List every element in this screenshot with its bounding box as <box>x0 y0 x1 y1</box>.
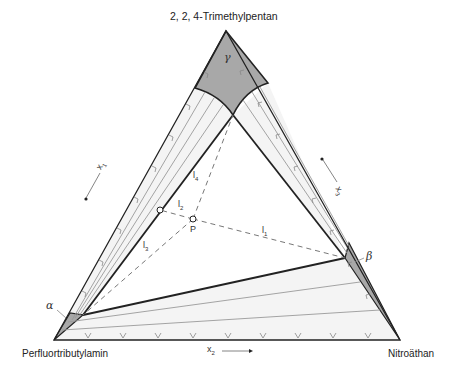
point-p-label: P <box>190 224 196 234</box>
vertex-label-bottom-left: Perfluortributylamin <box>22 348 108 359</box>
gamma-label: γ <box>224 51 231 64</box>
line-l4-label: l4 <box>193 170 198 182</box>
beta-label: β <box>366 250 372 263</box>
line-l3-label: l3 <box>143 240 148 252</box>
alpha-label: α <box>46 299 53 312</box>
point-p-marker <box>190 216 196 222</box>
point-on-boundary-marker <box>157 207 163 213</box>
axis-label-x2: x2 <box>207 344 215 356</box>
vertex-label-top: 2, 2, 4-Trimethylpentan <box>170 10 278 22</box>
vertex-label-bottom-right: Nitroäthan <box>388 348 434 359</box>
line-l1-label: l1 <box>262 225 267 237</box>
line-l2-label: l2 <box>178 199 183 211</box>
